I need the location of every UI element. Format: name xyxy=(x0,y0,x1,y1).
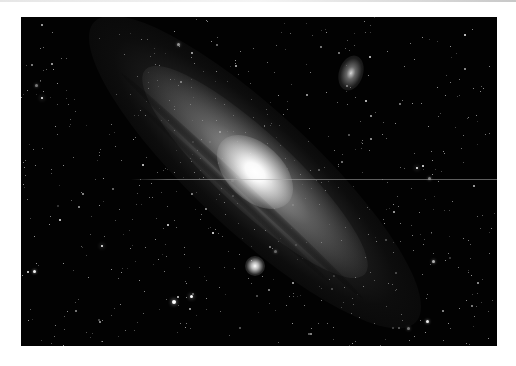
page xyxy=(0,0,516,366)
top-border-line xyxy=(0,0,516,2)
horizontal-artifact-line xyxy=(131,179,497,180)
companion-galaxy-m32 xyxy=(245,256,265,276)
galaxy-photograph xyxy=(21,17,497,346)
